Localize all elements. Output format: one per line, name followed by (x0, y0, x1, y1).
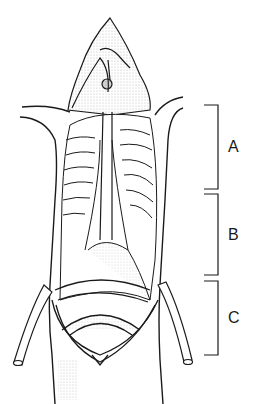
figure: A B C (0, 0, 255, 404)
shading (58, 360, 78, 400)
striated-body (60, 112, 157, 300)
label-c: C (228, 310, 240, 326)
bracket-a (204, 105, 218, 189)
label-a: A (228, 139, 239, 155)
bracket-c (204, 281, 218, 355)
bracket-b (204, 194, 218, 275)
brackets (204, 105, 218, 355)
illustration (0, 0, 255, 404)
apex-flap (68, 18, 150, 115)
label-b: B (228, 227, 239, 243)
